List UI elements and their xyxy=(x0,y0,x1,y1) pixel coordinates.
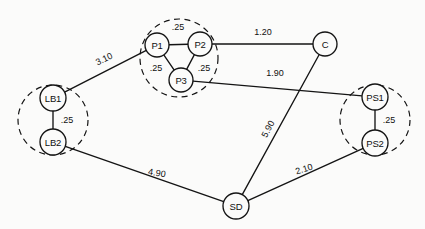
edge-layer xyxy=(53,44,375,202)
edge-p2-p3-weight: .25 xyxy=(198,63,211,73)
node-ps2-label: PS2 xyxy=(366,138,383,149)
edge-p3-ps1 xyxy=(193,81,362,96)
edge-p1-p3 xyxy=(164,55,174,70)
edge-lb1-p1-weight: 3.10 xyxy=(94,51,114,68)
node-sd-label: SD xyxy=(230,201,243,212)
node-c-label: C xyxy=(322,39,329,50)
node-layer: P1P2P3CLB1LB2PS1PS2SD xyxy=(40,32,388,219)
node-p1-label: P1 xyxy=(151,40,162,51)
diagram-canvas: P1P2P3CLB1LB2PS1PS2SD .25.25.251.201.903… xyxy=(0,0,425,229)
node-ps1[interactable]: PS1 xyxy=(362,84,388,110)
node-ps1-label: PS1 xyxy=(366,92,383,103)
edge-p2-c-weight: 1.20 xyxy=(254,27,272,37)
node-lb2[interactable]: LB2 xyxy=(40,129,66,155)
edge-label-layer: .25.25.251.201.903.10.25.255.904.902.10 xyxy=(61,22,396,179)
edge-p3-ps1-weight: 1.90 xyxy=(266,68,284,78)
edge-sd-ps2-weight: 2.10 xyxy=(294,162,314,177)
node-p2-label: P2 xyxy=(194,39,205,50)
node-lb1[interactable]: LB1 xyxy=(40,85,66,111)
node-p2[interactable]: P2 xyxy=(188,32,212,56)
edge-sd-ps2 xyxy=(248,148,363,200)
edge-lb1-lb2-weight: .25 xyxy=(61,115,74,125)
node-c[interactable]: C xyxy=(313,32,337,56)
edge-p1-p2-weight: .25 xyxy=(172,22,185,32)
edge-lb2-sd-weight: 4.90 xyxy=(148,167,167,180)
edge-lb2-sd xyxy=(65,146,223,201)
network-diagram: P1P2P3CLB1LB2PS1PS2SD .25.25.251.201.903… xyxy=(0,0,425,229)
node-ps2[interactable]: PS2 xyxy=(362,130,388,156)
node-lb1-label: LB1 xyxy=(45,93,61,104)
edge-p2-p3 xyxy=(187,55,195,70)
edge-p1-p3-weight: .25 xyxy=(150,63,163,73)
node-p3[interactable]: P3 xyxy=(169,68,193,92)
edge-ps1-ps2-weight: .25 xyxy=(383,115,396,125)
node-sd[interactable]: SD xyxy=(223,193,249,219)
cluster-layer xyxy=(18,19,410,155)
node-p1[interactable]: P1 xyxy=(145,33,169,57)
node-lb2-label: LB2 xyxy=(45,137,61,148)
node-p3-label: P3 xyxy=(175,75,186,86)
